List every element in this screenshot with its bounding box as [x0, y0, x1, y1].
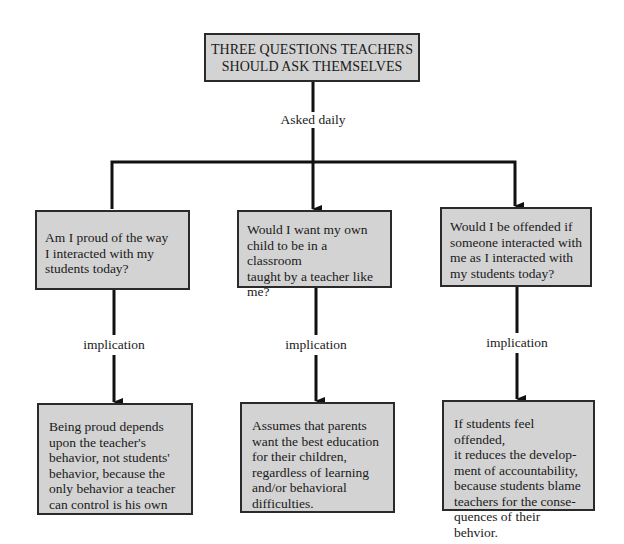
- question-box-1: Am I proud of the way I interacted with …: [35, 210, 190, 290]
- implication-2-line-4: regardless of learning: [252, 465, 385, 481]
- title-line-2: SHOULD ASK THEMSELVES: [206, 58, 418, 75]
- question-box-3: Would I be offended if someone interacte…: [440, 207, 592, 287]
- implication-box-3: If students feel offended, it reduces th…: [442, 400, 595, 511]
- implication-1-line-5: only behavior a teacher: [49, 481, 183, 497]
- question-1-line-2: I interacted with my: [45, 246, 180, 262]
- question-3-line-2: someone interacted with: [450, 235, 582, 251]
- question-box-2: Would I want my own child to be in a cla…: [237, 210, 392, 288]
- question-2-line-3: taught by a teacher like: [247, 269, 382, 285]
- implication-2-line-1: Assumes that parents: [252, 418, 385, 434]
- implication-3-line-6: quences of their behvior.: [454, 509, 585, 540]
- implication-1-line-2: upon the teacher's: [49, 435, 183, 451]
- implication-3-line-2: it reduces the develop-: [454, 447, 585, 463]
- implication-box-1: Being proud depends upon the teacher's b…: [37, 403, 193, 515]
- implication-3-line-3: ment of accountability,: [454, 463, 585, 479]
- implication-label-1: implication: [79, 337, 149, 353]
- implication-3-line-1: If students feel offended,: [454, 416, 585, 447]
- question-3-line-1: Would I be offended if: [450, 219, 582, 235]
- implication-1-line-3: behavior, not students': [49, 450, 183, 466]
- title-line-1: THREE QUESTIONS TEACHERS: [206, 41, 418, 58]
- implication-2-line-5: and/or behavioral: [252, 480, 385, 496]
- implication-label-2: implication: [281, 337, 351, 353]
- implication-box-2: Assumes that parents want the best educa…: [240, 402, 395, 513]
- implication-1-line-1: Being proud depends: [49, 419, 183, 435]
- implication-1-line-6: can control is his own: [49, 497, 183, 513]
- question-1-line-3: students today?: [45, 261, 180, 277]
- asked-daily-label: Asked daily: [270, 112, 356, 128]
- question-2-line-4: me?: [247, 284, 382, 300]
- implication-3-line-4: because students blame: [454, 478, 585, 494]
- implication-2-line-2: want the best education: [252, 434, 385, 450]
- question-2-line-2: child to be in a classroom: [247, 238, 382, 269]
- question-2-line-1: Would I want my own: [247, 222, 382, 238]
- implication-3-line-5: teachers for the conse-: [454, 494, 585, 510]
- implication-label-3: implication: [482, 335, 552, 351]
- question-3-line-4: my students today?: [450, 266, 582, 282]
- question-3-line-3: me as I interacted with: [450, 250, 582, 266]
- title-box: THREE QUESTIONS TEACHERS SHOULD ASK THEM…: [204, 33, 420, 82]
- implication-1-line-4: behavior, because the: [49, 466, 183, 482]
- implication-2-line-6: difficulties.: [252, 496, 385, 512]
- question-1-line-1: Am I proud of the way: [45, 230, 180, 246]
- implication-2-line-3: for their children,: [252, 449, 385, 465]
